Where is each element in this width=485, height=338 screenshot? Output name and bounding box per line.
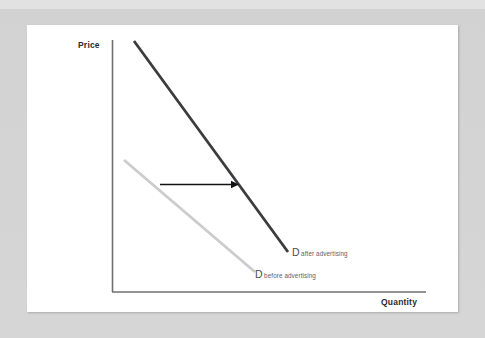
background-strip	[0, 0, 485, 9]
curve-label-before-symbol: D	[255, 268, 263, 280]
curve-label-after-subscript: after advertising	[301, 250, 348, 257]
demand-shift-chart	[27, 25, 458, 312]
page-root: Price Quantity Dafter advertising Dbefor…	[0, 0, 485, 338]
curve-label-after-symbol: D	[292, 246, 300, 258]
chart-panel: Price Quantity Dafter advertising Dbefor…	[27, 25, 458, 312]
chart-plot-area: Price Quantity Dafter advertising Dbefor…	[27, 25, 458, 312]
curve-label-before-subscript: before advertising	[264, 272, 316, 279]
demand-curve-after	[134, 41, 288, 252]
curve-label-after: Dafter advertising	[292, 243, 348, 259]
demand-curve-before	[124, 160, 255, 272]
curve-label-before: Dbefore advertising	[255, 265, 316, 281]
demand-shift-arrow	[160, 181, 239, 188]
x-axis-title: Quantity	[381, 297, 417, 307]
y-axis-title: Price	[78, 40, 100, 50]
